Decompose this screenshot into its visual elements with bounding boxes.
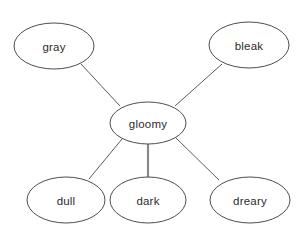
- edge-gloomy-dull: [89, 139, 122, 179]
- node-label-gray: gray: [42, 41, 65, 53]
- edge-gloomy-dreary: [176, 138, 219, 180]
- node-gloomy[interactable]: gloomy: [110, 102, 186, 144]
- node-label-dull: dull: [57, 195, 76, 207]
- node-bleak[interactable]: bleak: [209, 22, 289, 68]
- node-label-bleak: bleak: [235, 40, 264, 52]
- edge-gloomy-bleak: [175, 64, 222, 106]
- node-dreary[interactable]: dreary: [210, 177, 290, 223]
- word-web-canvas: gray bleak dull dark dreary gloomy: [0, 0, 305, 241]
- node-dark[interactable]: dark: [110, 177, 186, 223]
- node-label-gloomy: gloomy: [129, 118, 167, 130]
- word-web-diagram: gray bleak dull dark dreary gloomy: [0, 0, 305, 241]
- node-label-dark: dark: [136, 195, 159, 207]
- edge-gloomy-gray: [81, 64, 120, 106]
- node-dull[interactable]: dull: [27, 177, 105, 223]
- node-gray[interactable]: gray: [14, 23, 94, 69]
- node-label-dreary: dreary: [233, 195, 267, 207]
